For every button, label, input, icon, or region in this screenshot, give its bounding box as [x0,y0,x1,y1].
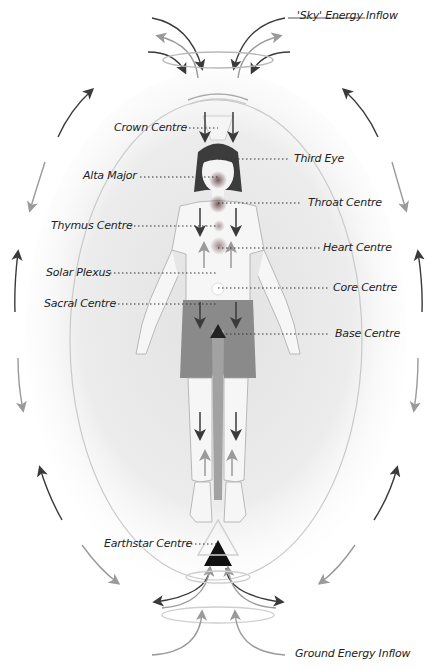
label-base-centre: Base Centre [335,327,400,340]
label-sky-energy-inflow: 'Sky' Energy Inflow [297,9,398,22]
label-core-centre: Core Centre [333,281,397,294]
label-solar-plexus: Solar Plexus [46,266,111,279]
label-ground-energy-inflow: Ground Energy Inflow [295,647,410,660]
chakra-diagram: 'Sky' Energy Inflow Crown Centre Third E… [0,0,432,670]
label-alta-major: Alta Major [83,169,137,182]
label-third-eye: Third Eye [294,152,344,165]
label-sacral-centre: Sacral Centre [44,297,116,310]
label-earthstar-centre: Earthstar Centre [104,537,192,550]
label-crown-centre: Crown Centre [114,121,187,134]
label-heart-centre: Heart Centre [323,241,392,254]
label-thymus-centre: Thymus Centre [51,219,133,232]
label-throat-centre: Throat Centre [308,196,382,209]
